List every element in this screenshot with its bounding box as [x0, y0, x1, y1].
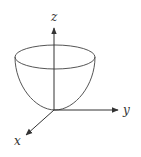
paraboloid-surface [15, 45, 95, 110]
paraboloid-rim [15, 45, 95, 69]
paraboloid-profile [15, 57, 95, 110]
paraboloid-diagram: z y x [0, 0, 141, 157]
x-axis [26, 110, 54, 135]
z-axis-label: z [50, 10, 58, 24]
y-axis-label: y [122, 103, 130, 117]
axes [26, 28, 118, 135]
x-axis-label: x [14, 134, 21, 148]
